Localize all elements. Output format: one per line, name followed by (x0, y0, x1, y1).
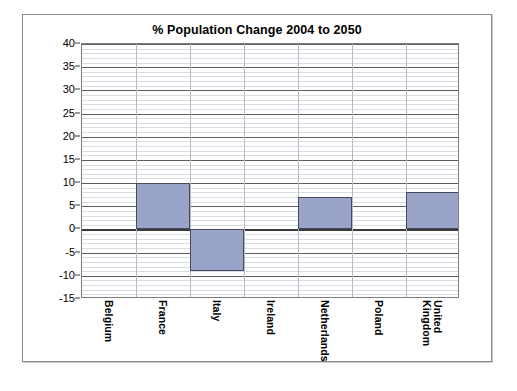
gridline-minor (82, 234, 458, 235)
chart-frame: % Population Change 2004 to 2050 4035302… (22, 14, 492, 362)
y-tick-label: 15 (63, 153, 75, 165)
y-tick-mark (75, 298, 80, 299)
gridline-minor (82, 243, 458, 244)
gridline-minor (82, 72, 458, 73)
gridline-major (82, 67, 458, 68)
y-tick-mark (75, 228, 80, 229)
gridline-minor (82, 267, 458, 268)
x-category-ireland: Ireland (243, 300, 297, 358)
gridline-vertical (352, 44, 353, 297)
x-category-netherlands: Netherlands (297, 300, 351, 358)
gridline-minor (82, 155, 458, 156)
gridline-minor (82, 262, 458, 263)
gridline-minor (82, 151, 458, 152)
y-tick-label: 25 (63, 107, 75, 119)
x-category-label: Poland (372, 300, 383, 336)
gridline-minor (82, 63, 458, 64)
x-category-label: United Kingdom (421, 300, 443, 346)
gridline-minor (82, 239, 458, 240)
gridline-minor (82, 118, 458, 119)
gridline-minor (82, 141, 458, 142)
gridline-minor (82, 132, 458, 133)
x-category-label: Netherlands (318, 300, 329, 362)
x-category-label: Ireland (264, 300, 275, 335)
gridline-minor (82, 49, 458, 50)
gridline-minor (82, 109, 458, 110)
gridline-minor (82, 290, 458, 291)
bar-italy (190, 229, 244, 271)
x-category-belgium: Belgium (81, 300, 135, 358)
gridline-major (82, 44, 458, 45)
y-tick-mark (75, 135, 80, 136)
gridline-vertical (136, 44, 137, 297)
gridline-minor (82, 127, 458, 128)
x-category-label: France (156, 300, 167, 335)
gridline-minor (82, 76, 458, 77)
x-category-france: France (135, 300, 189, 358)
y-axis: 4035302520151050-5-10-15 (37, 43, 75, 298)
gridline-minor (82, 123, 458, 124)
x-category-label: Italy (210, 300, 221, 322)
y-tick-mark (75, 182, 80, 183)
y-tick-label: 40 (63, 37, 75, 49)
bar-netherlands (298, 197, 352, 229)
gridline-minor (82, 100, 458, 101)
gridline-major (82, 114, 458, 115)
gridline-minor (82, 95, 458, 96)
gridline-minor (82, 169, 458, 170)
gridline-vertical (406, 44, 407, 297)
gridline-minor (82, 146, 458, 147)
gridline-minor (82, 271, 458, 272)
y-tick-mark (75, 251, 80, 252)
x-axis: BelgiumFranceItalyIrelandNetherlandsPola… (81, 300, 459, 358)
gridline-minor (82, 165, 458, 166)
gridline-major (82, 253, 458, 254)
y-tick-mark (75, 274, 80, 275)
gridline-minor (82, 294, 458, 295)
gridline-major (82, 137, 458, 138)
y-tick-mark (75, 43, 80, 44)
y-tick-label: -5 (65, 246, 75, 258)
gridline-minor (82, 257, 458, 258)
y-tick-label: 10 (63, 176, 75, 188)
zero-line (82, 229, 458, 231)
x-category-poland: Poland (351, 300, 405, 358)
gridline-minor (82, 86, 458, 87)
y-tick-label: 30 (63, 83, 75, 95)
y-tick-label: 20 (63, 130, 75, 142)
gridline-minor (82, 81, 458, 82)
y-tick-mark (75, 158, 80, 159)
y-tick-label: -10 (59, 269, 75, 281)
x-category-italy: Italy (189, 300, 243, 358)
y-tick-mark (75, 112, 80, 113)
gridline-minor (82, 285, 458, 286)
y-tick-label: -15 (59, 292, 75, 304)
gridline-minor (82, 58, 458, 59)
gridline-vertical (298, 44, 299, 297)
gridline-vertical (244, 44, 245, 297)
gridline-major (82, 276, 458, 277)
plot-area (81, 43, 459, 298)
y-tick-mark (75, 89, 80, 90)
gridline-major (82, 90, 458, 91)
gridline-minor (82, 53, 458, 54)
bar-united-kingdom (406, 192, 459, 229)
y-tick-mark (75, 66, 80, 67)
gridline-minor (82, 104, 458, 105)
x-category-label: Belgium (102, 300, 113, 342)
gridline-minor (82, 178, 458, 179)
chart-title: % Population Change 2004 to 2050 (23, 23, 491, 37)
gridline-minor (82, 248, 458, 249)
x-category-united-kingdom: United Kingdom (405, 300, 459, 358)
y-tick-label: 35 (63, 60, 75, 72)
gridline-major (82, 160, 458, 161)
bar-france (136, 183, 190, 229)
y-tick-mark (75, 205, 80, 206)
gridline-minor (82, 174, 458, 175)
gridline-minor (82, 280, 458, 281)
